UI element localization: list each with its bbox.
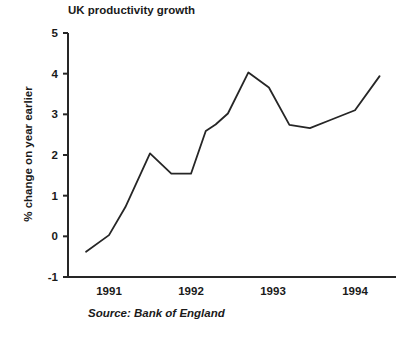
y-tick-label: 2 [52, 149, 58, 161]
y-tick-label-group: -1012345 [48, 27, 59, 283]
y-axis: -1012345 [48, 27, 68, 283]
data-series-group [86, 72, 380, 251]
y-tick-label: 4 [52, 68, 59, 80]
source-note: Source: Bank of England [88, 307, 225, 319]
plot-area: -1012345 1991199219931994 [0, 0, 408, 337]
x-axis: 1991199219931994 [68, 277, 396, 297]
y-tick-label: -1 [48, 271, 59, 283]
x-tick-label: 1993 [260, 285, 286, 297]
chart-figure: UK productivity growth % change on year … [0, 0, 408, 337]
series-line-uk-productivity-growth [86, 72, 380, 251]
y-tick-label: 5 [52, 27, 59, 39]
x-tick-label: 1994 [342, 285, 368, 297]
y-tick-label: 1 [52, 190, 59, 202]
y-tick-label: 0 [52, 230, 58, 242]
x-tick-label: 1992 [178, 285, 204, 297]
y-tick-label: 3 [52, 108, 58, 120]
x-tick-label: 1991 [96, 285, 122, 297]
x-tick-label-group: 1991199219931994 [96, 285, 368, 297]
